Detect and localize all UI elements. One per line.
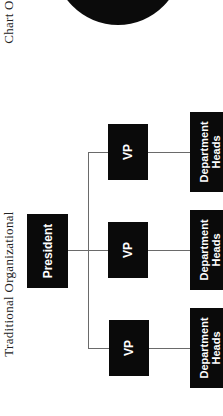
- department-heads-label: Department Heads: [198, 317, 222, 378]
- chart-title: Traditional Organizational: [1, 211, 17, 356]
- connector-dept-2: [148, 250, 190, 251]
- decorative-circle: [53, 0, 183, 25]
- department-heads-label: Department Heads: [198, 219, 222, 280]
- vp-label: VP: [122, 144, 134, 160]
- vp-label: VP: [123, 340, 135, 356]
- vp-label: VP: [122, 242, 134, 258]
- connector-vp-1: [88, 152, 108, 153]
- vp-box: VP: [109, 320, 149, 376]
- department-heads-box: Department Heads: [190, 308, 223, 388]
- department-heads-label: Department Heads: [198, 121, 222, 182]
- connector-dept-3: [149, 348, 190, 349]
- connector-vp-2: [88, 250, 108, 251]
- connector-vp-3: [88, 348, 109, 349]
- vp-box: VP: [108, 124, 148, 180]
- chart-title-fragment: Chart O: [1, 0, 17, 44]
- connector-dept-1: [148, 152, 190, 153]
- department-heads-box: Department Heads: [190, 210, 223, 290]
- connector-president: [68, 250, 88, 251]
- president-label: President: [42, 224, 54, 279]
- department-heads-box: Department Heads: [190, 112, 223, 192]
- vp-box: VP: [108, 222, 148, 278]
- president-box: President: [27, 214, 68, 288]
